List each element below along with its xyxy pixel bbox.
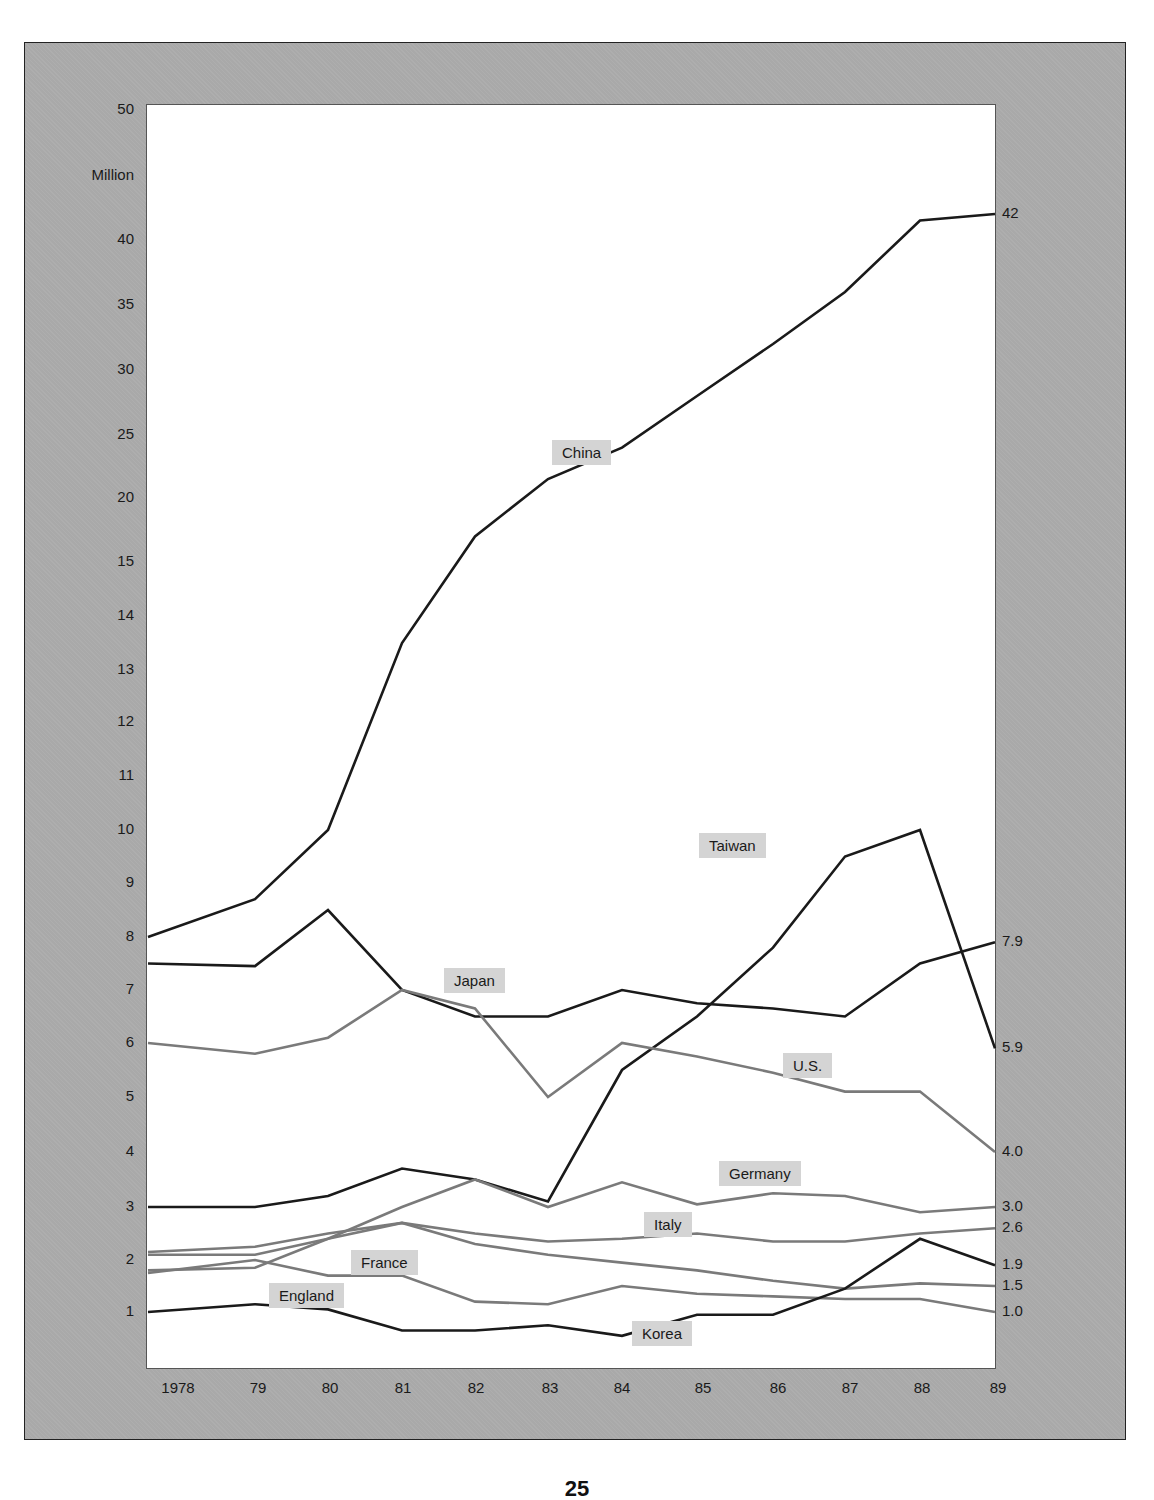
series-label-italy: Italy — [644, 1212, 692, 1237]
page-number: 25 — [0, 1476, 1154, 1500]
series-label-france: France — [351, 1250, 418, 1275]
series-line-japan — [148, 910, 995, 1017]
series-label-japan: Japan — [444, 968, 505, 993]
end-value-label: 3.0 — [1002, 1197, 1023, 1214]
end-value-label: 42 — [1002, 204, 1019, 221]
series-label-england: England — [269, 1283, 344, 1308]
end-value-label: 1.9 — [1002, 1255, 1023, 1272]
series-label-korea: Korea — [632, 1321, 692, 1346]
series-label-us: U.S. — [783, 1053, 832, 1078]
series-line-italy — [148, 1223, 995, 1252]
end-value-label: 2.6 — [1002, 1218, 1023, 1235]
series-line-taiwan — [148, 830, 995, 1207]
series-label-taiwan: Taiwan — [699, 833, 766, 858]
end-value-label: 4.0 — [1002, 1142, 1023, 1159]
end-value-label: 1.0 — [1002, 1302, 1023, 1319]
series-line-us — [148, 990, 995, 1152]
series-line-france — [148, 1223, 995, 1289]
series-line-china — [148, 214, 995, 937]
end-value-label: 1.5 — [1002, 1276, 1023, 1293]
end-value-label: 5.9 — [1002, 1038, 1023, 1055]
series-label-germany: Germany — [719, 1161, 801, 1186]
series-label-china: China — [552, 440, 611, 465]
end-value-label: 7.9 — [1002, 932, 1023, 949]
